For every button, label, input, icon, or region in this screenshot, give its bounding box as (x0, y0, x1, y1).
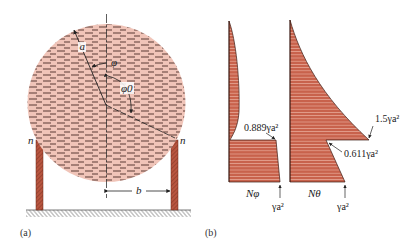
phi0-label: φ0 (121, 82, 133, 94)
n-theta-bottom-value: γa² (336, 201, 349, 212)
n-phi-top-arrow (266, 133, 275, 139)
caption-b: (b) (205, 227, 217, 239)
n-phi-bottom-value: γa² (271, 201, 284, 212)
panel-a: a φ φ0 n n b (a) (20, 14, 191, 239)
n-phi-axis-label: Nφ (245, 187, 259, 199)
support-leg-left (36, 140, 43, 210)
half-span-label: b (136, 184, 142, 196)
support-right-label: n (180, 134, 186, 146)
n-theta-notch-value: 0.611γa² (344, 148, 378, 159)
ground-hatch (26, 210, 191, 217)
radius-label: a (80, 40, 86, 52)
support-leg-right (171, 140, 178, 210)
n-phi-diagram (229, 21, 280, 182)
n-theta-peak-arrow (369, 126, 373, 138)
panel-b: 0.889γa² Nφ γa² 1.5γa² 0.611γa² Nθ γa² (… (205, 20, 399, 239)
n-phi-top-value: 0.889γa² (244, 122, 278, 133)
caption-a: (a) (20, 227, 31, 239)
phi-label: φ (111, 56, 117, 68)
n-theta-peak-value: 1.5γa² (375, 113, 399, 124)
support-left-label: n (28, 134, 34, 146)
figure-canvas: a φ φ0 n n b (a) 0.889γa² Nφ γa² 1.5γa² … (0, 0, 417, 243)
n-theta-axis-label: Nθ (307, 187, 321, 199)
